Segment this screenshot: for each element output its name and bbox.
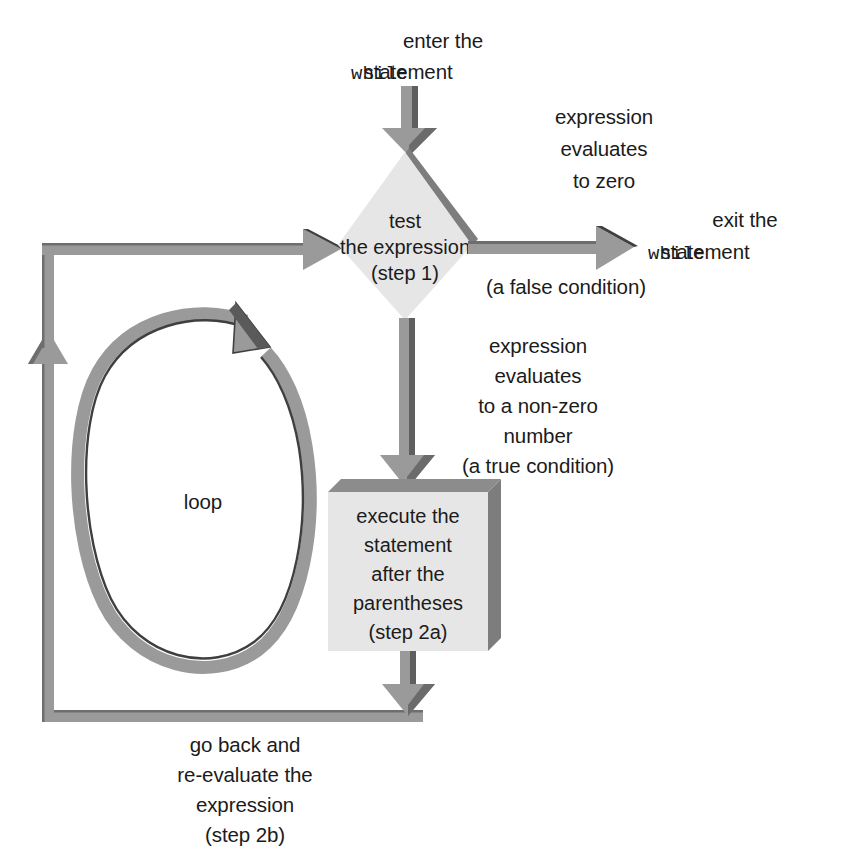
- feedback-left-bar-upper-edge: [42, 248, 45, 348]
- true-branch-line1: expression: [489, 334, 587, 357]
- process-label-line3: after the: [371, 563, 444, 585]
- process-label-line5: (step 2a): [369, 621, 448, 643]
- exit-label-line2: while statement: [648, 240, 750, 265]
- entry-arrow: [382, 86, 437, 156]
- entry-arrow-shaft-shade: [412, 86, 418, 132]
- feedback-bottom-bar-top-edge: [42, 710, 423, 713]
- process-label-line2: statement: [364, 534, 452, 556]
- return-arrow: [382, 651, 435, 716]
- false-branch-line2: evaluates: [561, 137, 648, 160]
- exit-arrow: [468, 226, 638, 270]
- true-branch-line4: number: [504, 424, 573, 447]
- loop-label: loop: [184, 490, 222, 513]
- exit-label-line1: exit the: [712, 208, 777, 231]
- go-back-line2: re-evaluate the: [177, 763, 312, 786]
- decision-label-line1: test: [389, 210, 422, 232]
- exit-label-statement: statement: [660, 240, 750, 263]
- process-top-face: [328, 479, 501, 492]
- decision-label-line3: (step 1): [371, 262, 439, 284]
- decision-node[interactable]: test the expression (step 1): [338, 148, 478, 320]
- return-arrow-shaft-shade: [410, 651, 416, 687]
- process-node[interactable]: execute the statement after the parenthe…: [328, 479, 501, 651]
- flowchart-canvas: test the expression (step 1) execute: [0, 0, 848, 868]
- exit-arrowhead: [596, 226, 634, 270]
- true-branch-line5: (a true condition): [462, 454, 614, 477]
- process-label-line1: execute the: [356, 505, 459, 527]
- feedback-top-bar-edge: [42, 243, 309, 246]
- true-arrow-shaft-shade: [409, 318, 415, 458]
- flowchart-svg: test the expression (step 1) execute: [0, 0, 848, 868]
- enter-label-statement: statement: [363, 60, 453, 83]
- false-condition-label: (a false condition): [486, 275, 646, 298]
- process-side-face: [488, 479, 501, 651]
- feedback-right-arrowhead: [303, 229, 341, 270]
- exit-arrow-shaft-edge: [468, 241, 608, 244]
- decision-label-line2: the expression: [340, 236, 470, 258]
- loop-oval-arrow: [78, 303, 310, 667]
- enter-label-line2: while statement: [351, 60, 453, 85]
- true-branch-line3: to a non-zero: [478, 394, 598, 417]
- enter-label-line1: enter the: [403, 29, 483, 52]
- true-branch-line2: evaluates: [495, 364, 582, 387]
- feedback-left-bar-lower-edge: [42, 360, 45, 722]
- false-branch-line3: to zero: [573, 169, 635, 192]
- go-back-line4: (step 2b): [205, 823, 285, 846]
- process-label-line4: parentheses: [353, 592, 463, 614]
- true-branch-arrow: [380, 318, 435, 489]
- go-back-line3: expression: [196, 793, 294, 816]
- false-branch-line1: expression: [555, 105, 653, 128]
- go-back-line1: go back and: [190, 733, 301, 756]
